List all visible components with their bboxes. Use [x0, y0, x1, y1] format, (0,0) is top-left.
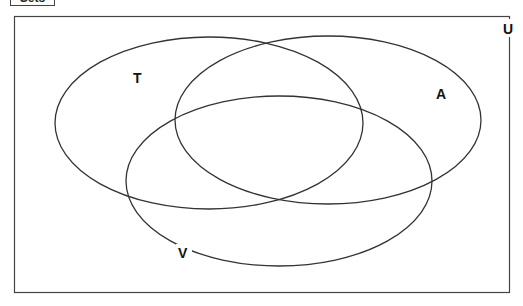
set-v-label: V [178, 245, 188, 261]
set-t-ellipse [55, 37, 363, 209]
set-a-label: A [436, 86, 446, 102]
universe-frame [15, 17, 510, 293]
set-v-ellipse [126, 96, 432, 266]
venn-diagram: U T A V [0, 0, 523, 306]
universe-label: U [503, 21, 513, 37]
set-a-ellipse [175, 36, 481, 204]
set-t-label: T [133, 70, 142, 86]
